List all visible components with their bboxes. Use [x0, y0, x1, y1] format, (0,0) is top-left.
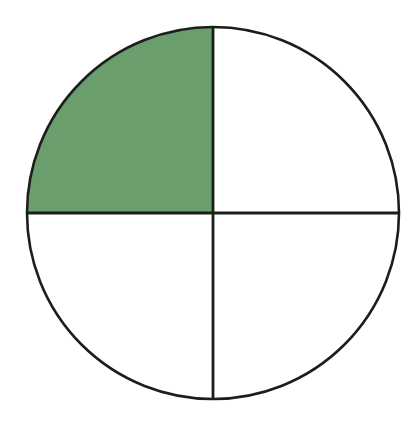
pie-slice-top-left-shaded	[27, 27, 213, 213]
pie-slice-top-right-unshaded	[213, 27, 399, 213]
fraction-circle-figure	[0, 0, 417, 422]
pie-slice-bottom-right-unshaded	[213, 213, 399, 399]
fraction-circle-svg	[0, 0, 417, 422]
pie-slice-bottom-left-unshaded	[27, 213, 213, 399]
